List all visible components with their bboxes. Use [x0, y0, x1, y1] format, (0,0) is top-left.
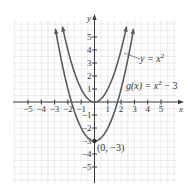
y-tick-label: 1	[87, 84, 92, 94]
y-tick-label: −5	[82, 162, 92, 172]
x-tick-label: 2	[119, 104, 124, 114]
axes	[13, 14, 184, 183]
y-tick-label: 2	[87, 71, 92, 81]
x-tick-label: 4	[145, 104, 150, 114]
leader-line-y-eq-x2	[124, 53, 140, 59]
x-tick-label: 1	[106, 104, 111, 114]
x-tick-label: −2	[63, 104, 73, 114]
coordinate-plane: −5−4−3−2−112345−5−4−3−2−112345 y x y = x…	[0, 0, 195, 185]
y-tick-label: 3	[87, 58, 92, 68]
x-tick-label: −5	[23, 104, 33, 114]
y-tick-label: −1	[82, 110, 92, 120]
label-g-of-x: g(x) = x2 − 3	[126, 79, 177, 92]
x-tick-label: 5	[159, 104, 164, 114]
x-axis-label: x	[178, 104, 183, 114]
y-axis-label: y	[86, 13, 91, 23]
y-tick-label: 5	[87, 32, 92, 42]
x-tick-label: −3	[50, 104, 60, 114]
curve-arrow-icon	[61, 26, 65, 32]
y-axis-arrow-icon	[92, 14, 96, 20]
curve-arrow-icon	[123, 26, 127, 32]
x-tick-label: −4	[37, 104, 47, 114]
vertex-label: (0, −3)	[97, 142, 124, 154]
y-tick-label: −4	[82, 149, 92, 159]
y-tick-label: 4	[87, 45, 92, 55]
x-tick-label: 3	[132, 104, 137, 114]
